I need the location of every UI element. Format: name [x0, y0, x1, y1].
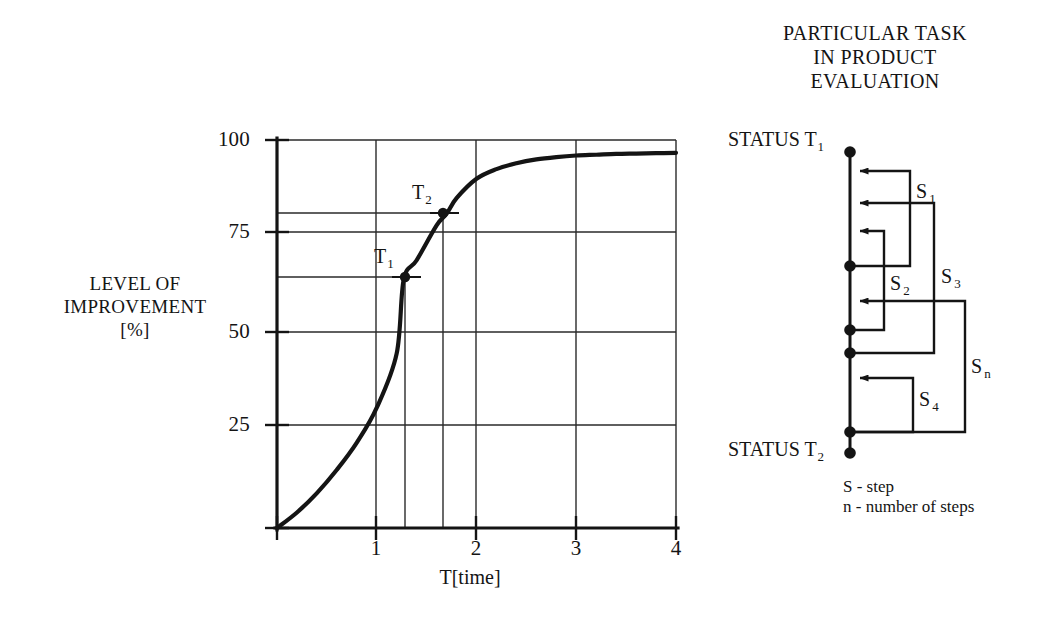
status-label-top: STATUS T1: [728, 128, 823, 151]
node-s2-origin: [844, 324, 856, 336]
figure-root: 100 75 50 25 1 2 3 4 LEVEL OF IMPROVEMEN…: [0, 0, 1055, 619]
step-label-sn-text: S: [971, 355, 982, 377]
status-label-bottom: STATUS T2: [728, 438, 823, 461]
step-loop-s1: [850, 171, 910, 266]
step-label-s3-sub: 3: [954, 276, 961, 291]
step-label-sn: Sn: [971, 355, 989, 378]
xtick-label-2: 2: [456, 536, 496, 561]
ytick-label-75: 75: [188, 219, 250, 244]
step-loop-s2: [850, 231, 884, 330]
diagram-legend-line-2: n - number of steps: [843, 497, 974, 517]
y-axis-title-line-3: [%]: [30, 318, 240, 341]
annotation-label-t2-text: T: [412, 181, 424, 203]
node-s4-origin: [844, 426, 856, 438]
y-axis-title-line-2: IMPROVEMENT: [30, 295, 240, 318]
node-s1-origin: [844, 260, 856, 272]
step-label-s2-sub: 2: [903, 283, 910, 298]
ytick-label-25: 25: [188, 412, 250, 437]
annotation-guides: [277, 213, 457, 528]
y-axis-title: LEVEL OF IMPROVEMENT [%]: [30, 272, 240, 341]
step-label-s1-text: S: [916, 180, 927, 202]
diagram-legend: S - step n - number of steps: [843, 477, 974, 517]
step-label-s3: S3: [941, 265, 959, 288]
y-axis-title-line-1: LEVEL OF: [30, 272, 240, 295]
step-label-s4: S4: [919, 388, 937, 411]
xtick-label-3: 3: [556, 536, 596, 561]
step-label-s4-sub: 4: [932, 399, 939, 414]
node-s3-origin: [844, 347, 856, 359]
diagram-legend-line-1: S - step: [843, 477, 974, 497]
ytick-label-100: 100: [188, 127, 250, 152]
step-diagram-svg: [700, 0, 1055, 619]
xtick-label-1: 1: [356, 536, 396, 561]
node-status-t2: [844, 447, 856, 459]
status-label-top-text: STATUS T: [728, 128, 817, 150]
step-loop-s2-path: [850, 231, 884, 330]
annotation-label-t2: T2: [412, 181, 431, 204]
step-loop-sn-path: [850, 301, 965, 432]
annotation-label-t2-sub: 2: [425, 192, 432, 207]
status-label-bottom-sub: 2: [818, 449, 825, 464]
chart-panel: 100 75 50 25 1 2 3 4 LEVEL OF IMPROVEMEN…: [0, 0, 700, 619]
step-loop-sn: [850, 301, 965, 432]
step-loop-s4: [850, 378, 913, 432]
step-loop-s1-path: [850, 171, 910, 266]
step-label-s2-text: S: [890, 272, 901, 294]
step-loop-s4-path: [850, 378, 913, 432]
annotation-label-t1-text: T: [374, 245, 386, 267]
step-label-s1-sub: 1: [929, 191, 936, 206]
diagram-panel: [700, 0, 1055, 619]
x-axis-title: T[time]: [370, 566, 570, 589]
node-status-t1: [844, 146, 856, 158]
annotation-label-t1: T1: [374, 245, 393, 268]
step-label-s2: S2: [890, 272, 908, 295]
step-label-s3-text: S: [941, 265, 952, 287]
step-label-s1: S1: [916, 180, 934, 203]
step-label-s4-text: S: [919, 388, 930, 410]
xtick-label-4: 4: [656, 536, 696, 561]
status-label-bottom-text: STATUS T: [728, 438, 817, 460]
annotation-label-t1-sub: 1: [387, 256, 394, 271]
status-label-top-sub: 1: [818, 139, 825, 154]
step-label-sn-sub: n: [984, 366, 991, 381]
